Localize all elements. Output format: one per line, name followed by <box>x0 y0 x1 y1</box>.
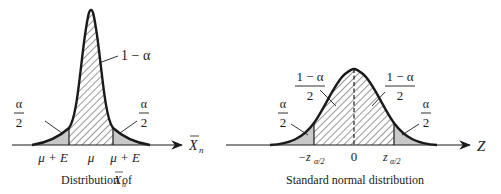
right-tail-label: α 2 <box>402 97 431 135</box>
svg-text:α: α <box>16 97 23 111</box>
svg-text:X: X <box>188 138 198 153</box>
left-panel: X n 1 − α α 2 α 2 μ + E μ μ + E Distribu… <box>12 10 204 189</box>
tick-left: μ + E <box>37 150 68 165</box>
svg-text:2: 2 <box>423 115 430 130</box>
center-area <box>314 69 394 145</box>
svg-text:α/2: α/2 <box>390 157 400 166</box>
center-area <box>69 10 113 145</box>
right-tail-area <box>113 128 150 145</box>
svg-text:α: α <box>141 97 148 111</box>
figure: X n 1 − α α 2 α 2 μ + E μ μ + E Distribu… <box>0 0 501 194</box>
svg-text:1 − α: 1 − α <box>386 69 413 84</box>
svg-text:X: X <box>113 173 122 187</box>
left-tail-area <box>32 128 69 145</box>
axis-label-z: Z <box>477 138 486 154</box>
left-caption: Distribution of X n <box>61 172 132 189</box>
tick-zero: 0 <box>351 149 358 164</box>
left-half-label: 1 − α 2 <box>295 69 336 106</box>
svg-text:−z: −z <box>298 150 311 164</box>
svg-text:1 − α: 1 − α <box>296 69 323 84</box>
svg-text:z: z <box>382 150 388 164</box>
svg-text:α: α <box>423 97 430 111</box>
right-tail-label: α 2 <box>120 97 149 133</box>
tick-center: μ <box>87 150 95 165</box>
svg-text:2: 2 <box>280 115 287 130</box>
right-panel: Z 1 − α 2 1 − α 2 α 2 α 2 <box>226 69 486 187</box>
axis-label-xbar-n: X n <box>188 136 204 155</box>
left-tail-label: α 2 <box>14 97 62 133</box>
left-tail-label: α 2 <box>278 97 308 135</box>
svg-text:2: 2 <box>307 88 314 103</box>
center-area-label: 1 − α <box>121 48 151 63</box>
svg-text:n: n <box>199 145 204 155</box>
tick-pos-z: z α/2 <box>382 150 400 166</box>
svg-text:α/2: α/2 <box>314 157 324 166</box>
svg-text:n: n <box>122 180 126 189</box>
svg-text:α: α <box>280 97 287 111</box>
svg-text:2: 2 <box>397 88 404 103</box>
svg-text:2: 2 <box>16 115 23 130</box>
svg-text:2: 2 <box>141 115 148 130</box>
right-caption: Standard normal distribution <box>286 173 424 187</box>
tick-right: μ + E <box>109 150 140 165</box>
tick-neg-z: −z α/2 <box>298 150 324 166</box>
